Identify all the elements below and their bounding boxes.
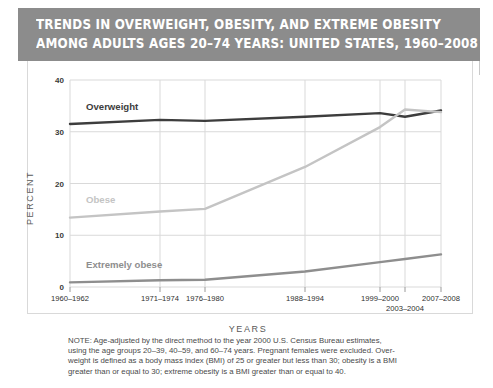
x-tick-label: 1960–1962 (51, 294, 89, 303)
x-axis-ticks: 1960–19621971–19741976–19801988–19941999… (51, 287, 460, 313)
series-label-overweight: Overweight (86, 101, 139, 112)
note-line-1: NOTE: Age-adjusted by the direct method … (68, 336, 474, 346)
y-tick-label: 0 (60, 283, 65, 292)
series-line-obese (70, 109, 441, 217)
note-line-3: weight is defined as a body mass index (… (68, 356, 474, 366)
y-tick-label: 30 (55, 128, 64, 137)
line-chart-svg: 010203040 1960–19621971–19741976–1980198… (0, 0, 493, 388)
y-axis-title: PERCENT (25, 171, 35, 225)
x-axis-title: YEARS (229, 324, 268, 334)
data-series-lines (70, 109, 441, 282)
y-tick-label: 40 (55, 76, 64, 85)
x-tick-label: 2003–2004 (386, 304, 424, 313)
chart-note: NOTE: Age-adjusted by the direct method … (68, 336, 474, 377)
data-series-labels: OverweightObeseExtremely obese (86, 101, 162, 270)
series-label-extremely-obese: Extremely obese (86, 259, 162, 270)
y-axis-ticks: 010203040 (55, 76, 64, 292)
note-line-2: using the age groups 20–39, 40–59, and 6… (68, 346, 474, 356)
x-tick-label: 1988–1994 (286, 294, 324, 303)
note-line-4: greater than or equal to 30; extreme obe… (68, 367, 474, 377)
x-tick-label: 1976–1980 (186, 294, 224, 303)
y-tick-label: 10 (55, 231, 64, 240)
x-tick-label: 1999–2000 (361, 294, 399, 303)
x-tick-label: 2007–2008 (422, 294, 460, 303)
x-tick-label: 1971–1974 (141, 294, 179, 303)
chart-plot-area: 010203040 1960–19621971–19741976–1980198… (0, 0, 493, 388)
series-label-obese: Obese (86, 194, 115, 205)
y-tick-label: 20 (55, 180, 64, 189)
